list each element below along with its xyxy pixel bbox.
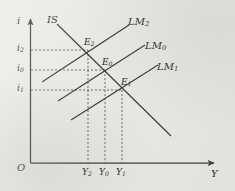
e2-label-base: E (84, 37, 91, 47)
x-tick-y0-sub: 0 (105, 170, 109, 177)
diagram-canvas (0, 0, 235, 191)
origin-label: O (17, 163, 25, 173)
x-tick-y2-sub: 2 (88, 170, 92, 177)
x-tick-label-y2: Y2 (82, 168, 92, 177)
y-tick-i2-sub: 2 (20, 46, 24, 53)
lm2-curve-label: LM2 (128, 17, 149, 28)
y-tick-label-i0: i0 (17, 64, 24, 73)
x-axis-label: Y (211, 169, 218, 179)
lm0-curve-label: LM0 (145, 41, 166, 52)
lm1-label-base: LM (157, 61, 174, 72)
lm2-curve (42, 25, 129, 82)
e0-label-sub: 0 (109, 60, 113, 67)
lm1-label-sub: 1 (174, 65, 178, 73)
equilibrium-label-e0: E0 (102, 58, 112, 67)
e0-label-base: E (102, 57, 109, 67)
lm0-label-sub: 0 (162, 44, 166, 52)
e2-label-sub: 2 (91, 40, 95, 47)
is-lm-diagram: i Y O i2 i0 i1 Y2 Y0 Y1 IS LM2 LM0 LM1 E… (0, 0, 235, 191)
x-tick-label-y1: Y1 (116, 168, 126, 177)
lm0-label-base: LM (145, 40, 162, 51)
equilibrium-label-e2: E2 (84, 38, 94, 47)
y-tick-i0-sub: 0 (20, 66, 24, 73)
e1-label-base: E (121, 77, 128, 87)
lm2-label-base: LM (128, 16, 145, 27)
x-tick-label-y0: Y0 (99, 168, 109, 177)
e1-label-sub: 1 (128, 80, 132, 87)
y-axis-label: i (17, 16, 20, 26)
equilibrium-label-e1: E1 (121, 78, 131, 87)
is-label-base: IS (47, 14, 58, 25)
lm1-curve (71, 65, 158, 120)
y-tick-i1-sub: 1 (20, 86, 24, 93)
is-curve-label: IS (47, 15, 58, 26)
y-tick-label-i2: i2 (17, 44, 24, 53)
lm2-label-sub: 2 (145, 20, 149, 28)
x-tick-y1-sub: 1 (122, 170, 126, 177)
y-tick-label-i1: i1 (17, 84, 24, 93)
lm1-curve-label: LM1 (157, 62, 178, 73)
lm0-curve (58, 45, 145, 101)
